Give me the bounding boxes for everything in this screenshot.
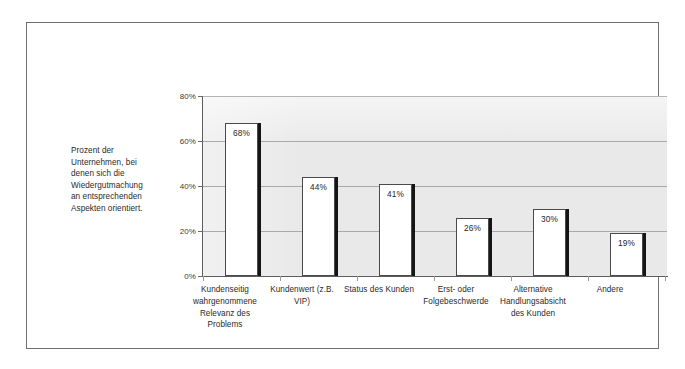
gridline-60 xyxy=(203,141,667,142)
x-category-label-6: Andere xyxy=(564,284,656,296)
gridline-40 xyxy=(203,186,667,187)
y-tick-label-0: 0% xyxy=(184,272,203,281)
x-tick-mark-6 xyxy=(665,276,666,281)
y-tick-label-20: 20% xyxy=(180,227,203,236)
x-tick-mark-5 xyxy=(588,276,589,281)
x-tick-mark-1 xyxy=(280,276,281,281)
gridline-20 xyxy=(203,231,667,232)
x-tick-mark-0 xyxy=(203,276,204,281)
bar-value-label-1: 68% xyxy=(226,128,257,138)
y-tick-label-80: 80% xyxy=(180,92,203,101)
bar-value-label-3: 41% xyxy=(380,189,411,199)
x-tick-mark-4 xyxy=(511,276,512,281)
bar-2[interactable]: 44% xyxy=(302,177,335,276)
figure-frame: Prozent der Unternehmen, bei denen sich … xyxy=(26,22,659,349)
bar-4[interactable]: 26% xyxy=(456,218,489,277)
bar-value-label-6: 19% xyxy=(611,238,642,248)
chart-plot-area: 80% 60% 40% 20% 0% 68% 44% 41% xyxy=(203,96,667,276)
bar-1[interactable]: 68% xyxy=(225,123,258,276)
y-tick-label-60: 60% xyxy=(180,137,203,146)
bar-value-label-5: 30% xyxy=(534,214,565,224)
bar-6[interactable]: 19% xyxy=(610,233,643,276)
x-axis-line xyxy=(202,276,668,277)
bar-value-label-2: 44% xyxy=(303,182,334,192)
figure-screenshot: Prozent der Unternehmen, bei denen sich … xyxy=(0,0,685,369)
x-tick-mark-3 xyxy=(434,276,435,281)
bar-3[interactable]: 41% xyxy=(379,184,412,276)
bar-value-label-4: 26% xyxy=(457,223,488,233)
bar-5[interactable]: 30% xyxy=(533,209,566,277)
plot-top-border xyxy=(203,96,667,97)
x-tick-mark-2 xyxy=(357,276,358,281)
y-axis-caption: Prozent der Unternehmen, bei denen sich … xyxy=(71,145,189,215)
y-tick-label-40: 40% xyxy=(180,182,203,191)
